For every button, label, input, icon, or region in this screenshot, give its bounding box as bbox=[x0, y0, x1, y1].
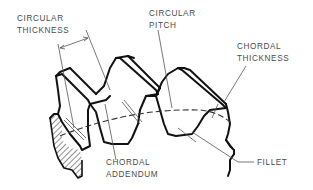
hatched-section bbox=[50, 114, 82, 178]
label-chordal-thickness-line2: THICKNESS bbox=[237, 53, 289, 65]
gear-tooth-diagram: CIRCULAR THICKNESS CIRCULAR PITCH CHORDA… bbox=[0, 0, 313, 190]
label-circular-thickness-line2: THICKNESS bbox=[17, 25, 69, 37]
label-circular-thickness-line1: CIRCULAR bbox=[17, 13, 69, 25]
label-chordal-thickness-line1: CHORDAL bbox=[237, 41, 289, 53]
label-fillet: FILLET bbox=[257, 157, 287, 169]
label-fillet-line1: FILLET bbox=[257, 157, 287, 169]
label-circular-pitch-line2: PITCH bbox=[149, 20, 196, 32]
label-circular-pitch: CIRCULAR PITCH bbox=[149, 8, 196, 32]
label-chordal-addendum-line1: CHORDAL bbox=[106, 157, 158, 169]
label-chordal-addendum-line2: ADDENDUM bbox=[106, 169, 158, 181]
label-chordal-addendum: CHORDAL ADDENDUM bbox=[106, 157, 158, 181]
label-circular-thickness: CIRCULAR THICKNESS bbox=[17, 13, 69, 37]
label-circular-pitch-line1: CIRCULAR bbox=[149, 8, 196, 20]
label-chordal-thickness: CHORDAL THICKNESS bbox=[237, 41, 289, 65]
